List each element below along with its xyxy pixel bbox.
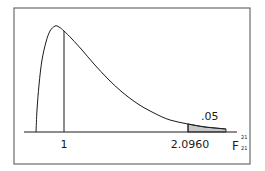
axis-variable-label: F 21 21 xyxy=(232,137,239,153)
axis-variable-superscript: 21 xyxy=(241,135,247,140)
axis-variable-f: F xyxy=(232,139,239,153)
x-tick-label-1: 1 xyxy=(61,139,68,150)
tail-area-label: .05 xyxy=(201,111,219,122)
x-tick-label-critical-value: 2.0960 xyxy=(171,139,210,150)
f-distribution-chart xyxy=(0,0,265,171)
axis-variable-subscript: 21 xyxy=(241,146,247,151)
